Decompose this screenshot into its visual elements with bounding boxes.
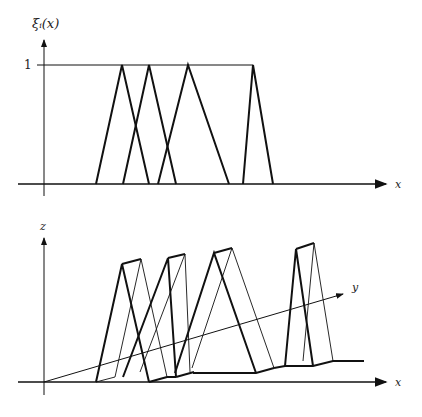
membership-triangle-3 (158, 65, 229, 184)
bottom-x-axis-label: x (395, 376, 402, 389)
top-x-axis-label: x (395, 178, 402, 191)
top-plot: 1 ξᵢ(x) x (18, 16, 402, 196)
membership-triangle-1 (96, 65, 149, 184)
tick-label-one: 1 (24, 58, 32, 72)
bottom-plot: z x y (18, 220, 402, 395)
z-axis-label: z (39, 220, 46, 233)
membership-triangle-2 (123, 65, 176, 184)
top-y-axis-label: ξᵢ(x) (32, 16, 59, 31)
diagram-canvas: 1 ξᵢ(x) x z x y (0, 0, 422, 417)
prism-4 (274, 243, 364, 368)
prism-3 (175, 248, 274, 373)
membership-triangle-4 (243, 65, 273, 184)
y-axis (44, 294, 343, 382)
y-axis-label: y (351, 281, 359, 294)
